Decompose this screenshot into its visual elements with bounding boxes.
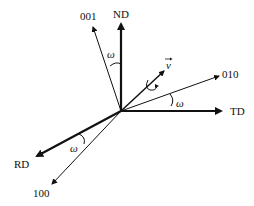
dir-010-axis	[121, 76, 219, 111]
rd-label: RD	[14, 158, 29, 170]
td-label: TD	[230, 105, 245, 117]
dir-010-label: 010	[222, 68, 239, 80]
rd-axis	[37, 111, 121, 156]
dir-100-axis	[52, 111, 121, 184]
omega-label-rd-100: ω	[70, 142, 78, 154]
v-accent-arrowhead	[170, 58, 173, 61]
v-vector	[121, 71, 164, 111]
angle-arc-td-010	[170, 94, 173, 106]
omega-label-nd-001: ω	[107, 48, 115, 60]
angle-arc-rd-100	[79, 134, 84, 144]
dir-001-axis	[93, 27, 121, 111]
dir-100-label: 100	[33, 187, 50, 199]
omega-label-td-010: ω	[176, 97, 184, 109]
crystal-orientation-diagram: ND TD RD 001 010 100 v ω ω ω	[0, 0, 254, 206]
dir-001-label: 001	[80, 10, 97, 22]
nd-label: ND	[113, 8, 129, 20]
v-label: v	[166, 59, 171, 71]
angle-arc-nd-001	[110, 63, 121, 66]
